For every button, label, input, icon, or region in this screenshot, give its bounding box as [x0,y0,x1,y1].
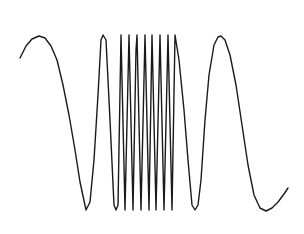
chart-figure: Line plot of a chirp signal [0,0,304,234]
plot-area [0,0,304,234]
